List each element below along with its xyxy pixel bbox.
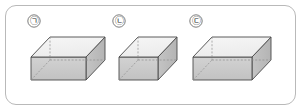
box-2-label-text: ㉡ [115,16,124,26]
boxes-diagram: ㉠ ㉡ ㉢ [0,0,303,112]
box-3-front-face [193,57,252,80]
box-3-label: ㉢ [190,15,202,27]
figure-root: ㉠ ㉡ ㉢ [0,0,303,112]
box-1-label-text: ㉠ [30,16,39,26]
box-3-label-text: ㉢ [192,16,201,26]
box-1-group: ㉠ [28,15,105,80]
box-1-front-face [31,57,86,80]
box-3-group: ㉢ [190,15,271,80]
box-2-label: ㉡ [113,15,125,27]
box-1-label: ㉠ [28,15,40,27]
box-2-group: ㉡ [113,15,177,80]
box-2-front-face [119,57,158,80]
